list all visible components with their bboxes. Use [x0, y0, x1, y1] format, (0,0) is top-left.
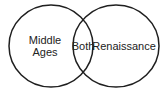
right-circle-label: Renaissance [92, 40, 156, 52]
left-circle-label: Middle Ages [19, 34, 71, 58]
venn-diagram: Middle Ages Both Renaissance [0, 0, 167, 91]
overlap-label: Both [72, 40, 95, 52]
